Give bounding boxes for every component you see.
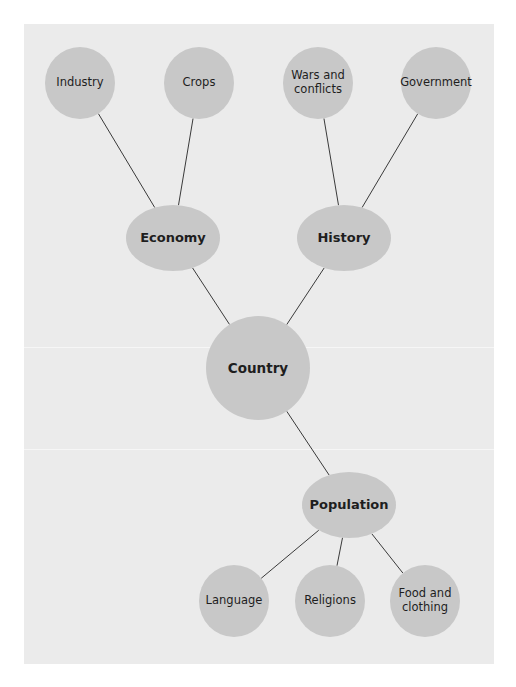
node-religions <box>295 565 365 637</box>
edge-country-economy <box>193 268 230 324</box>
node-population <box>302 472 396 538</box>
node-industry <box>45 47 115 119</box>
node-history <box>297 205 391 271</box>
edge-population-food <box>372 534 403 573</box>
mind-map-diagram <box>0 0 516 687</box>
node-language <box>199 565 269 637</box>
edge-country-population <box>287 411 329 475</box>
edge-economy-industry <box>98 114 154 208</box>
node-government <box>401 47 471 119</box>
edge-population-religions <box>337 538 343 566</box>
node-food <box>390 565 460 637</box>
edge-history-wars <box>324 118 339 205</box>
node-crops <box>164 47 234 119</box>
edge-economy-crops <box>178 118 193 205</box>
node-country <box>206 316 310 420</box>
nodes-group <box>45 47 471 637</box>
edge-country-history <box>287 268 325 325</box>
edge-population-language <box>261 530 319 578</box>
node-wars <box>283 47 353 119</box>
node-economy <box>126 205 220 271</box>
edge-history-government <box>362 114 418 208</box>
